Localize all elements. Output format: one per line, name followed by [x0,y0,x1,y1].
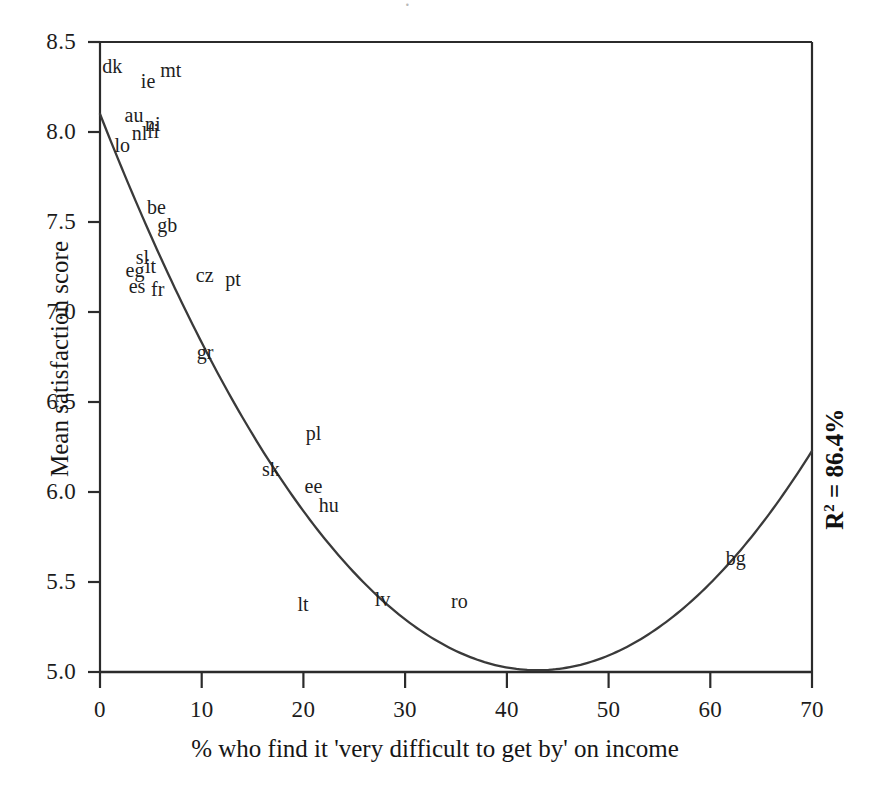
point-label-gb: gb [157,215,177,235]
r-squared-annotation: R2 = 86.4% [821,339,849,599]
y-tick-label: 8.0 [14,120,76,143]
x-tick-label: 10 [172,698,232,721]
point-label-lo: lo [114,135,130,155]
point-label-lt: lt [297,594,308,614]
y-tick-label: 5.5 [14,570,76,593]
point-label-bg: bg [726,548,746,568]
r-squared-r: R [821,512,848,530]
x-tick-label: 50 [579,698,639,721]
point-label-pl: pl [306,423,322,443]
point-label-ro: ro [451,591,468,611]
chart-figure: · [0,0,870,796]
y-axis-title: Mean satisfaction score [46,159,74,559]
x-axis-ticks [100,672,812,688]
point-label-hu: hu [319,495,339,515]
point-label-es: es [129,276,146,296]
x-tick-label: 30 [375,698,435,721]
point-label-gr: gr [197,342,214,362]
x-tick-label: 20 [273,698,333,721]
point-label-cz: cz [196,265,214,285]
point-label-ee: ee [305,476,323,496]
point-label-mt: mt [160,60,181,80]
x-tick-label: 0 [70,698,130,721]
y-tick-label: 8.5 [14,30,76,53]
y-axis-ticks [88,42,100,672]
point-label-pt: pt [225,269,241,289]
point-label-fr: fr [151,279,164,299]
fitted-curve [100,114,812,670]
r-squared-exponent: 2 [821,504,837,512]
point-label-dk: dk [102,56,122,76]
point-label-lv: lv [375,589,391,609]
x-axis-title: % who find it 'very difficult to get by'… [0,735,870,763]
x-tick-label: 60 [680,698,740,721]
point-label-sk: sk [262,459,280,479]
point-label-ie: ie [141,71,155,91]
y-tick-label: 5.0 [14,660,76,683]
r-squared-value: = 86.4% [821,409,848,505]
x-tick-label: 70 [782,698,842,721]
point-label-nl: nl [132,123,148,143]
point-label-it: it [145,256,156,276]
point-label-fi: fi [147,121,159,141]
x-tick-label: 40 [477,698,537,721]
